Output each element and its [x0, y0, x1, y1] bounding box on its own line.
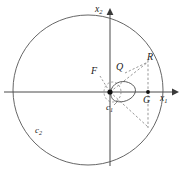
- axis-x1-arrowhead: [172, 89, 179, 96]
- dashed-leader-F: [100, 76, 109, 90]
- figure-canvas: [0, 0, 182, 172]
- point-F-marker: [107, 89, 112, 94]
- curve-label-c1: c1: [106, 103, 113, 112]
- point-label-F: F: [91, 66, 97, 76]
- curve-label-c2: c2: [35, 126, 42, 135]
- axis-label-x1: x1: [160, 94, 167, 104]
- dashed-segment-Q-R: [125, 62, 148, 73]
- axis-label-x2: x2: [95, 5, 102, 15]
- point-label-Q: Q: [116, 62, 123, 72]
- curve-c2-circle: [13, 15, 163, 165]
- geometry-figure: x2 x1 F Q R G c1 c2: [0, 0, 182, 172]
- point-label-G: G: [143, 95, 150, 105]
- curve-label-c2-subscript: 2: [39, 130, 42, 136]
- axis-label-x1-subscript: 1: [164, 97, 167, 104]
- axis-label-x2-subscript: 2: [99, 8, 102, 15]
- curve-label-c1-subscript: 1: [110, 107, 113, 113]
- point-label-R: R: [147, 52, 153, 62]
- axis-x2-arrowhead: [107, 8, 114, 15]
